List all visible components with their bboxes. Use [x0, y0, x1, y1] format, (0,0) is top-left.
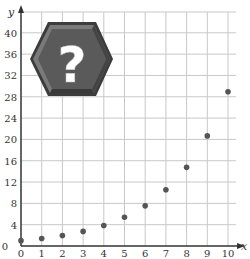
- data-point: [142, 203, 148, 209]
- y-tick-label: 0: [2, 241, 8, 252]
- x-tick-label: 8: [183, 248, 189, 259]
- x-tick-label: 3: [80, 248, 86, 259]
- x-tick-label: 6: [142, 248, 148, 259]
- y-tick-label: 4: [11, 220, 17, 231]
- y-tick-label: 40: [4, 28, 17, 39]
- data-point: [122, 215, 128, 221]
- y-tick-label: 28: [4, 92, 17, 103]
- data-point: [163, 187, 169, 193]
- x-tick-label: 2: [59, 248, 65, 259]
- x-axis-label: x: [241, 240, 248, 253]
- x-tick-label: 0: [18, 248, 24, 259]
- x-tick-label: 10: [222, 248, 235, 259]
- x-tick-label: 4: [101, 248, 107, 259]
- data-point: [80, 229, 86, 235]
- data-point: [205, 133, 211, 139]
- scatter-chart: 0123456789100481216202428323640 ? x y: [0, 0, 250, 259]
- x-tick-label: 7: [163, 248, 169, 259]
- y-tick-label: 16: [4, 156, 17, 167]
- y-axis-arrow-icon: [18, 5, 24, 13]
- data-point: [39, 236, 45, 242]
- y-axis-label: y: [7, 6, 15, 19]
- y-tick-label: 12: [4, 177, 17, 188]
- data-point: [18, 238, 24, 244]
- y-tick-label: 24: [4, 113, 17, 124]
- svg-text:?: ?: [57, 36, 86, 94]
- x-tick-label: 9: [204, 248, 210, 259]
- y-tick-label: 8: [11, 198, 17, 209]
- y-tick-label: 36: [4, 49, 17, 60]
- data-point: [101, 223, 107, 229]
- data-point: [225, 89, 231, 95]
- x-tick-label: 1: [39, 248, 45, 259]
- data-point: [60, 233, 66, 239]
- y-tick-label: 20: [4, 134, 17, 145]
- x-tick-label: 5: [121, 248, 127, 259]
- y-tick-label: 32: [4, 70, 17, 81]
- data-point: [184, 165, 190, 171]
